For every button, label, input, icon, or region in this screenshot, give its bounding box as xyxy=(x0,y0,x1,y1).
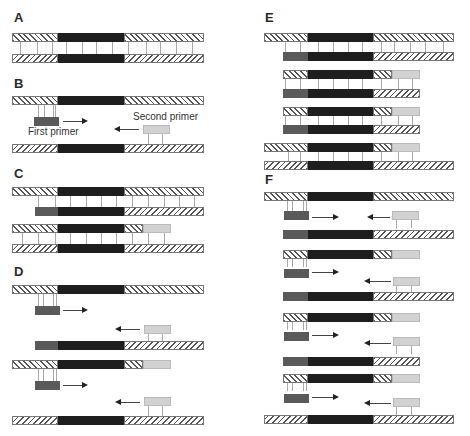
base-pair-line xyxy=(146,42,147,54)
extended-strand xyxy=(373,70,392,79)
target-region xyxy=(58,341,124,350)
first-primer-label: First primer xyxy=(28,126,79,137)
target-region xyxy=(308,143,373,152)
template-strand-bottom xyxy=(264,161,308,170)
template-strand-bottom xyxy=(12,144,58,153)
template-strand-top xyxy=(264,192,308,201)
panel-label-e: E xyxy=(265,10,274,25)
second-primer xyxy=(393,337,420,346)
base-pair-line xyxy=(300,152,301,161)
panel-label-c: C xyxy=(14,166,23,181)
extended-strand xyxy=(373,230,454,239)
base-pair-line xyxy=(306,201,307,211)
base-pair-line xyxy=(411,407,412,415)
extended-strand xyxy=(124,341,204,350)
template-strand-bottom xyxy=(12,54,58,63)
base-pair-line xyxy=(160,42,161,54)
arrow-left-icon xyxy=(369,343,391,344)
base-pair-line xyxy=(20,42,21,54)
extended-strand xyxy=(373,313,392,322)
first-primer xyxy=(284,269,309,278)
first-primer xyxy=(35,341,58,350)
arrow-right-icon xyxy=(312,335,334,336)
template-strand-bottom xyxy=(124,244,204,253)
extended-strand xyxy=(283,70,308,79)
first-primer xyxy=(284,211,309,220)
base-pair-line xyxy=(148,406,149,416)
base-pair-line xyxy=(176,42,177,54)
target-region xyxy=(58,244,124,253)
base-pair-line xyxy=(300,42,301,52)
base-pair-line xyxy=(333,152,334,161)
base-pair-line xyxy=(287,322,288,330)
first-primer xyxy=(35,207,58,216)
target-region xyxy=(308,250,373,259)
base-pair-line xyxy=(86,233,87,244)
second-primer xyxy=(143,125,170,134)
template-strand-top xyxy=(373,192,454,201)
base-pair-line xyxy=(55,105,56,117)
base-pair-line xyxy=(288,152,289,161)
extended-strand xyxy=(373,107,392,116)
base-pair-line xyxy=(411,346,412,354)
base-pair-line xyxy=(285,42,286,52)
base-pair-line xyxy=(55,196,56,207)
base-pair-line xyxy=(292,383,293,391)
arrow-left-icon xyxy=(119,129,139,130)
template-strand-bottom xyxy=(373,161,454,170)
target-region xyxy=(308,357,373,366)
base-pair-line xyxy=(287,201,288,211)
template-strand-bottom xyxy=(12,244,58,253)
template-strand-top xyxy=(124,33,204,42)
extended-strand xyxy=(283,313,308,322)
template-strand-top xyxy=(12,96,58,105)
second-primer xyxy=(392,211,419,220)
base-pair-line xyxy=(38,233,39,244)
base-pair-line xyxy=(43,369,44,381)
extended-strand xyxy=(283,250,308,259)
base-pair-line xyxy=(425,42,426,52)
base-pair-line xyxy=(44,105,45,117)
first-primer xyxy=(283,357,308,366)
second-primer xyxy=(144,325,171,334)
base-pair-line xyxy=(56,294,57,306)
base-pair-line xyxy=(22,233,23,244)
base-pair-line xyxy=(306,259,307,267)
base-pair-line xyxy=(443,42,444,52)
base-pair-line xyxy=(86,196,87,207)
extended-strand xyxy=(124,224,143,233)
base-pair-line xyxy=(333,42,334,52)
base-pair-line xyxy=(292,322,293,330)
arrow-right-icon xyxy=(63,121,83,122)
base-pair-line xyxy=(164,196,165,207)
second-primer xyxy=(143,360,171,369)
arrow-left-icon xyxy=(369,281,391,282)
target-region xyxy=(58,285,124,294)
first-primer xyxy=(35,306,60,315)
base-pair-line xyxy=(70,233,71,244)
extended-strand xyxy=(373,357,420,366)
template-strand xyxy=(373,143,392,152)
second-primer xyxy=(393,277,420,286)
base-pair-line xyxy=(306,322,307,330)
template-strand-top xyxy=(12,33,58,42)
template-strand-bottom xyxy=(124,144,204,153)
target-region xyxy=(308,292,373,301)
base-pair-line xyxy=(38,369,39,381)
base-pair-line xyxy=(66,42,67,54)
extended-strand xyxy=(373,89,420,98)
target-region xyxy=(58,144,124,153)
first-primer xyxy=(283,292,308,301)
template-strand-bottom xyxy=(124,416,204,425)
second-primer xyxy=(392,250,420,259)
base-pair-line xyxy=(128,42,129,54)
template-strand xyxy=(264,143,308,152)
base-pair-line xyxy=(148,233,149,244)
target-region xyxy=(58,187,124,196)
base-pair-line xyxy=(348,42,349,52)
base-pair-line xyxy=(381,42,382,52)
target-region xyxy=(308,33,373,42)
extended-strand xyxy=(373,52,454,61)
base-pair-line xyxy=(82,42,83,54)
base-pair-line xyxy=(101,233,102,244)
